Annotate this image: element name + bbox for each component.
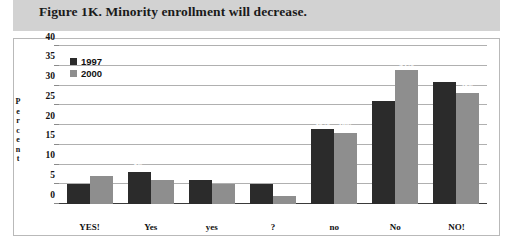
y-axis-title-char: e	[11, 135, 25, 145]
figure-title: Figure 1K. Minority enrollment will decr…	[39, 4, 307, 20]
y-axis-title-char: n	[11, 145, 25, 155]
bar-group: 5%2%	[250, 46, 296, 204]
bar: 5%	[212, 184, 235, 204]
legend-label: 1997	[81, 57, 102, 67]
x-axis-label: ?	[271, 222, 276, 232]
figure-header-band: Figure 1K. Minority enrollment will decr…	[13, 0, 500, 31]
bar-group: 8%6%	[128, 46, 174, 204]
y-axis-title-char: P	[11, 97, 25, 107]
chart-legend: 19972000	[70, 56, 128, 80]
legend-item: 2000	[70, 68, 128, 79]
bar: 2%	[273, 196, 296, 204]
bar-value-label: 6%	[195, 169, 206, 178]
bar-value-label: 5%	[218, 173, 229, 182]
y-tick-label: 15	[46, 130, 56, 140]
bar-value-label: 8%	[134, 161, 145, 170]
bar: 26%	[372, 101, 395, 204]
legend-swatch	[70, 58, 77, 65]
x-axis-label: Yes	[144, 222, 157, 232]
y-axis-title-char: e	[11, 107, 25, 117]
y-tick-label: 5	[50, 170, 55, 180]
bar-value-label: 31%	[437, 71, 452, 80]
x-axis-label: yes	[206, 222, 218, 232]
bar: 19%	[311, 129, 334, 204]
bar-value-label: 7%	[95, 165, 106, 174]
bar-group: 19%18%	[311, 46, 357, 204]
bar: 6%	[151, 180, 174, 204]
legend-label: 2000	[81, 69, 102, 79]
y-tick-label: 20	[46, 111, 56, 121]
y-tick-label: 40	[46, 32, 56, 42]
bar: 5%	[67, 184, 90, 204]
bar: 6%	[189, 180, 212, 204]
bar: 7%	[90, 176, 113, 204]
bar: 31%	[433, 82, 456, 204]
y-tick-label: 35	[46, 51, 56, 61]
y-tick-label: 0	[50, 190, 55, 200]
bar-value-label: 5%	[256, 173, 267, 182]
legend-swatch	[70, 70, 77, 77]
x-axis-label: no	[329, 222, 339, 232]
x-axis-label: YES!	[79, 222, 100, 232]
bar: 8%	[128, 172, 151, 204]
x-axis-label: NO!	[448, 222, 465, 232]
bar-value-label: 2%	[279, 185, 290, 194]
bar: 34%	[395, 70, 418, 204]
bar-value-label: 34%	[399, 59, 414, 68]
bar-value-label: 5%	[72, 173, 83, 182]
bar-value-label: 18%	[338, 122, 353, 131]
bar-group: 6%5%	[189, 46, 235, 204]
y-axis-title-char: t	[11, 154, 25, 164]
y-tick-label: 25	[46, 91, 56, 101]
y-axis-title-char: r	[11, 116, 25, 126]
bar-value-label: 19%	[315, 118, 330, 127]
figure-page: Figure 1K. Minority enrollment will decr…	[0, 0, 514, 247]
bar-value-label: 28%	[460, 82, 475, 91]
y-axis-title: Percent	[11, 97, 25, 164]
bar-value-label: 26%	[376, 90, 391, 99]
bar: 18%	[334, 133, 357, 204]
y-tick-label: 10	[46, 150, 56, 160]
bar-value-label: 6%	[157, 169, 168, 178]
legend-item: 1997	[70, 56, 128, 67]
chart-container: Percent 0510152025303540 5%7%8%6%6%5%5%2…	[13, 38, 500, 236]
bar-group: 26%34%	[372, 46, 418, 204]
bar: 28%	[456, 93, 479, 204]
y-tick-label: 30	[46, 71, 56, 81]
bar-group: 31%28%	[433, 46, 479, 204]
y-axis-title-char: c	[11, 126, 25, 136]
bar: 5%	[250, 184, 273, 204]
x-axis-label: No	[390, 222, 401, 232]
